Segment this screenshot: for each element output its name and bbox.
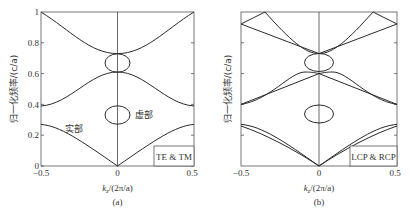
x-tick-neg: −0.5 bbox=[33, 168, 50, 178]
x-tick-neg-b: −0.5 bbox=[233, 168, 250, 178]
y-tick-0.4: 0.4 bbox=[28, 100, 40, 110]
x-tick-zero: 0 bbox=[115, 168, 120, 178]
legend-text-a: TE & TM bbox=[156, 152, 192, 162]
panel-b: −0.5 0 0.5 LCP & RCP 归一化频率/(c/a) bbox=[222, 12, 401, 207]
caption-b: (b) bbox=[314, 197, 325, 207]
panel-a: 0 0.2 0.4 0.6 0.8 1 −0.5 0 0.5 实部 虚部 bbox=[8, 7, 198, 207]
x-tick-labels-b: −0.5 0 0.5 bbox=[233, 168, 401, 178]
real-part-label: 实部 bbox=[65, 123, 83, 134]
y-tick-0.2: 0.2 bbox=[28, 130, 39, 140]
x-tick-pos: 0.5 bbox=[186, 168, 198, 178]
y-tick-0.8: 0.8 bbox=[28, 38, 40, 48]
imag-part-label: 虚部 bbox=[135, 109, 153, 120]
y-tick-1: 1 bbox=[35, 7, 40, 17]
y-axis-label-b: 归一化频率/(c/a) bbox=[222, 55, 233, 124]
x-axis-label-a: kz/(2π/a) bbox=[102, 183, 132, 194]
x-tick-labels-a: −0.5 0 0.5 bbox=[33, 168, 198, 178]
caption-a: (a) bbox=[113, 197, 123, 207]
x-axis-label-b: kz/(2π/a) bbox=[304, 183, 334, 194]
y-tick-labels-a: 0 0.2 0.4 0.6 0.8 1 bbox=[28, 7, 40, 171]
legend-text-b: LCP & RCP bbox=[351, 152, 396, 162]
x-tick-pos-b: 0.5 bbox=[389, 168, 401, 178]
y-axis-label-a: 归一化频率/(c/a) bbox=[8, 55, 19, 124]
figure: 0 0.2 0.4 0.6 0.8 1 −0.5 0 0.5 实部 虚部 bbox=[0, 0, 410, 213]
x-tick-zero-b: 0 bbox=[317, 168, 322, 178]
y-tick-0.6: 0.6 bbox=[28, 69, 40, 79]
